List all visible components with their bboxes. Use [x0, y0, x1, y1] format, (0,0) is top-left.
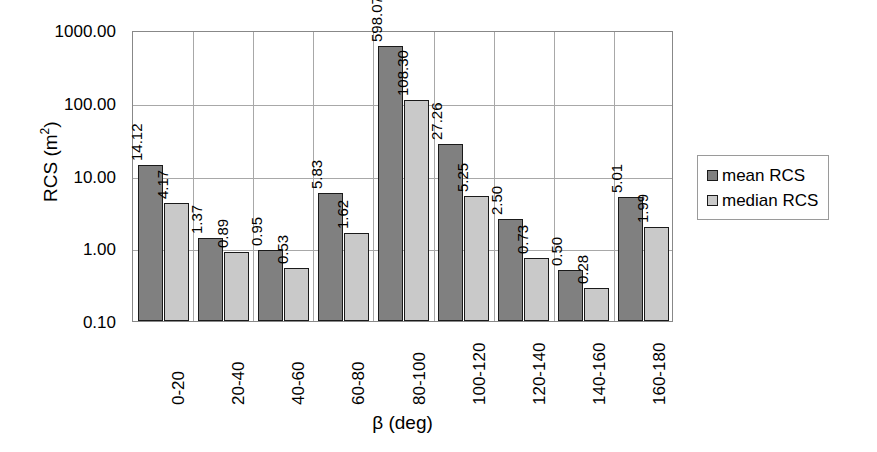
bar-median-140-160[interactable]: 0.28 [584, 288, 609, 321]
bar-value-label: 0.73 [515, 225, 530, 254]
x-axis-tick-140-160: 140-160 [591, 343, 608, 405]
legend-label-median: median RCS [722, 192, 818, 209]
bar-value-label: 1.62 [335, 200, 350, 229]
y-axis-tick-1.00: 1.00 [83, 241, 116, 258]
bar-value-label: 1.37 [189, 205, 204, 234]
bar-median-60-80[interactable]: 1.62 [344, 233, 369, 321]
x-axis-tick-20-40: 20-40 [230, 362, 247, 405]
legend-swatch-median-icon [707, 195, 718, 206]
bar-value-label: 0.50 [549, 237, 564, 266]
x-axis-title: β (deg) [132, 412, 673, 434]
bar-value-label: 27.26 [429, 102, 444, 140]
x-axis-tick-60-80: 60-80 [350, 362, 367, 405]
bar-median-120-140[interactable]: 0.73 [524, 258, 549, 321]
y-axis-tick-1000.00: 1000.00 [55, 23, 116, 40]
bar-value-label: 5.25 [455, 163, 470, 192]
y-axis-tick-10.00: 10.00 [73, 168, 116, 185]
gridline-vertical [253, 32, 254, 321]
bar-mean-20-40[interactable]: 1.37 [198, 238, 223, 321]
bar-value-label: 598.07 [369, 0, 384, 42]
plot-area: 14.124.171.370.890.950.535.831.62598.071… [132, 31, 673, 322]
x-axis-tick-80-100: 80-100 [411, 352, 428, 405]
bar-value-label: 0.95 [249, 217, 264, 246]
bar-value-label: 4.17 [155, 170, 170, 199]
bar-median-100-120[interactable]: 5.25 [464, 196, 489, 321]
chart-legend: mean RCS median RCS [697, 155, 829, 220]
x-axis-tick-40-60: 40-60 [290, 362, 307, 405]
bar-value-label: 2.50 [489, 186, 504, 215]
bar-value-label: 0.89 [215, 219, 230, 248]
legend-swatch-mean-icon [707, 170, 718, 181]
bar-value-label: 0.28 [575, 255, 590, 284]
bar-value-label: 108.30 [395, 50, 410, 96]
bar-median-0-20[interactable]: 4.17 [164, 203, 189, 321]
x-axis-tick-120-140: 120-140 [531, 343, 548, 405]
gridline-vertical [434, 32, 435, 321]
legend-item-median-rcs[interactable]: median RCS [707, 192, 818, 209]
bar-median-160-180[interactable]: 1.99 [644, 227, 669, 321]
y-axis-tick-0.10: 0.10 [83, 314, 116, 331]
gridline-vertical [494, 32, 495, 321]
legend-item-mean-rcs[interactable]: mean RCS [707, 167, 818, 184]
bar-value-label: 5.01 [609, 164, 624, 193]
bar-median-40-60[interactable]: 0.53 [284, 268, 309, 321]
y-axis-tick-labels: 1000.00100.0010.001.000.10 [10, 31, 124, 322]
x-axis-tick-labels: 0-2020-4040-6060-8080-100100-120120-1401… [132, 323, 673, 413]
legend-label-mean: mean RCS [722, 167, 805, 184]
gridline-vertical [373, 32, 374, 321]
y-axis-tick-100.00: 100.00 [64, 95, 116, 112]
rcs-bar-chart: RCS (m2) 1000.00100.0010.001.000.10 14.1… [0, 0, 877, 452]
bar-median-80-100[interactable]: 108.30 [404, 100, 429, 321]
gridline-vertical [193, 32, 194, 321]
bar-median-20-40[interactable]: 0.89 [224, 252, 249, 321]
x-axis-tick-100-120: 100-120 [471, 343, 488, 405]
x-axis-tick-0-20: 0-20 [170, 371, 187, 405]
bar-value-label: 0.53 [275, 235, 290, 264]
gridline-vertical [554, 32, 555, 321]
bar-value-label: 5.83 [309, 160, 324, 189]
bar-value-label: 14.12 [129, 123, 144, 161]
bar-value-label: 1.99 [635, 194, 650, 223]
x-axis-tick-160-180: 160-180 [651, 343, 668, 405]
